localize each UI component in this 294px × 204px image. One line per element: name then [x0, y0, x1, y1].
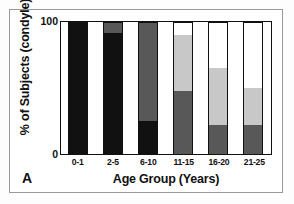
figure-panel-a: % of Subjects (condyle) 100 0 0-12-56-10… — [0, 0, 294, 204]
x-tick-label: 21-25 — [237, 157, 272, 167]
y-tick-label-0: 0 — [32, 148, 58, 160]
panel-letter: A — [22, 170, 32, 186]
bar-segment-dark-gray — [139, 22, 157, 121]
bar-segment-light-gray — [209, 68, 227, 125]
bar-segment-white — [174, 22, 192, 35]
bar-segment-dark-gray — [174, 91, 192, 154]
x-tick-label: 16-20 — [201, 157, 236, 167]
stacked-bar — [208, 22, 228, 154]
bar-segment-dark-gray — [104, 22, 122, 33]
bar-segment-black — [104, 33, 122, 154]
stacked-bar — [68, 22, 88, 154]
plot-area — [60, 21, 272, 155]
bar-segment-light-gray — [174, 35, 192, 90]
stacked-bar — [243, 22, 263, 154]
bar-segment-white — [209, 22, 227, 68]
bar-segment-dark-gray — [244, 125, 262, 154]
bar-segment-dark-gray — [209, 125, 227, 154]
bar-slot — [131, 22, 166, 154]
bar-segment-light-gray — [244, 88, 262, 125]
bar-slot — [61, 22, 96, 154]
y-axis-ticks: 100 0 — [28, 0, 58, 204]
stacked-bars-container — [61, 22, 271, 154]
x-axis-title: Age Group (Years) — [60, 172, 272, 186]
x-tick-label: 0-1 — [60, 157, 95, 167]
bar-segment-black — [139, 121, 157, 154]
x-axis-ticks: 0-12-56-1011-1516-2021-25 — [60, 157, 272, 167]
x-tick-label: 11-15 — [166, 157, 201, 167]
bar-slot — [96, 22, 131, 154]
stacked-bar — [138, 22, 158, 154]
x-tick-label: 6-10 — [131, 157, 166, 167]
stacked-bar — [103, 22, 123, 154]
bar-segment-black — [69, 22, 87, 154]
y-tick-label-100: 100 — [32, 15, 58, 27]
bar-slot — [201, 22, 236, 154]
stacked-bar — [173, 22, 193, 154]
bar-segment-white — [244, 22, 262, 88]
bar-slot — [166, 22, 201, 154]
bar-slot — [236, 22, 271, 154]
x-tick-label: 2-5 — [95, 157, 130, 167]
